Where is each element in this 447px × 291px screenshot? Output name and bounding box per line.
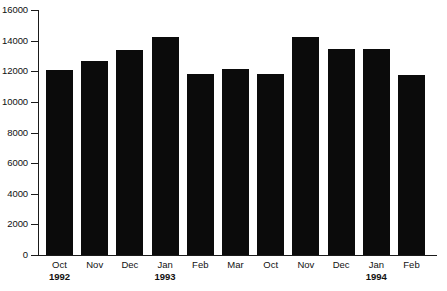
bar	[257, 74, 284, 255]
y-axis-tick-label-text: 16000	[0, 4, 28, 15]
y-axis-tick-label: 8000	[0, 127, 28, 138]
x-axis-label-group: Oct1992	[42, 259, 77, 283]
x-axis-label-year: 1993	[148, 271, 183, 283]
x-axis-label-month: Jan	[148, 259, 183, 271]
x-axis-label-month: Dec	[112, 259, 147, 271]
y-axis-tick-label: 4000	[0, 188, 28, 199]
y-axis-tick-mark	[31, 10, 38, 11]
x-axis-label-month: Feb	[183, 259, 218, 271]
bar	[81, 61, 108, 255]
y-axis-tick-mark	[31, 255, 38, 256]
y-axis-tick-label: 10000	[0, 96, 28, 107]
y-axis-tick-label-text: 0	[0, 249, 28, 260]
y-axis-tick-mark	[31, 71, 38, 72]
y-axis-tick-label-text: 12000	[0, 65, 28, 76]
x-axis-label-month: Oct	[253, 259, 288, 271]
y-axis-tick-mark	[31, 102, 38, 103]
y-axis-tick-mark	[31, 224, 38, 225]
x-axis-label-month: Dec	[324, 259, 359, 271]
x-axis-label-month: Nov	[77, 259, 112, 271]
x-axis-label-group: Jan1994	[359, 259, 394, 283]
y-axis-tick-label-text: 8000	[0, 127, 28, 138]
y-axis-tick-label-text: 14000	[0, 35, 28, 46]
x-axis-label-group: Jan1993	[148, 259, 183, 283]
bar	[116, 50, 143, 255]
x-axis-label-group: Mar	[218, 259, 253, 271]
y-axis-tick-label: 12000	[0, 65, 28, 76]
x-axis-label-group: Oct	[253, 259, 288, 271]
x-axis-label-group: Dec	[324, 259, 359, 271]
x-axis-line	[38, 255, 437, 256]
y-axis-tick-mark	[31, 194, 38, 195]
bar	[398, 75, 425, 255]
bar	[46, 70, 73, 255]
y-axis-tick-label: 2000	[0, 218, 28, 229]
y-axis-tick-label: 0	[0, 249, 28, 260]
y-axis-tick-label: 16000	[0, 4, 28, 15]
y-axis-tick-mark	[31, 133, 38, 134]
bar	[328, 49, 355, 255]
y-axis-tick-label-text: 6000	[0, 157, 28, 168]
y-axis-tick-label-text: 10000	[0, 96, 28, 107]
x-axis-label-month: Feb	[394, 259, 429, 271]
bar	[152, 37, 179, 255]
x-axis-label-year: 1994	[359, 271, 394, 283]
x-axis-label-month: Mar	[218, 259, 253, 271]
y-axis-tick-mark	[31, 41, 38, 42]
x-axis-label-month: Jan	[359, 259, 394, 271]
bar	[363, 49, 390, 255]
bar	[292, 37, 319, 255]
y-axis-tick-label: 14000	[0, 35, 28, 46]
x-axis-label-group: Dec	[112, 259, 147, 271]
y-axis-tick-label: 6000	[0, 157, 28, 168]
x-axis-label-group: Nov	[77, 259, 112, 271]
x-axis-label-group: Feb	[183, 259, 218, 271]
y-axis-tick-mark	[31, 163, 38, 164]
x-axis-label-month: Oct	[42, 259, 77, 271]
x-axis-label-group: Feb	[394, 259, 429, 271]
y-axis-tick-label-text: 2000	[0, 218, 28, 229]
y-axis-tick-label-text: 4000	[0, 188, 28, 199]
y-axis-line	[38, 10, 39, 255]
bar	[187, 74, 214, 255]
x-axis-label-month: Nov	[288, 259, 323, 271]
x-axis-label-group: Nov	[288, 259, 323, 271]
bar-chart: 0200040006000800010000120001400016000 Oc…	[0, 0, 447, 291]
x-axis-label-year: 1992	[42, 271, 77, 283]
bar	[222, 69, 249, 255]
